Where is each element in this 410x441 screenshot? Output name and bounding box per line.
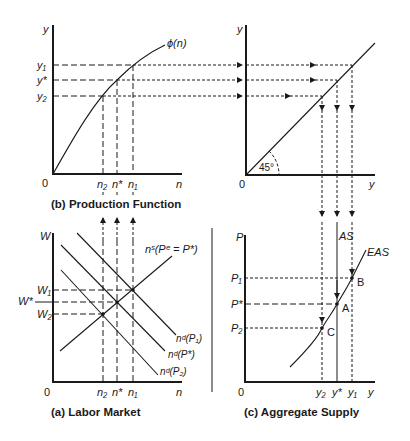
y2-tick: y₂ (315, 386, 327, 398)
forty-five-degree-panel: y 0 y 45° (236, 23, 376, 216)
labor-market-panel: W nˢ(Pᵉ = P*) W₁ W* W₂ nᵈ(P₁) nᵈ(P*) nᵈ(… (18, 218, 202, 418)
ystar-tick: y* (36, 74, 48, 86)
point-b: B (357, 276, 364, 288)
nstar-tick: n* (112, 178, 123, 190)
production-caption: (b) Production Function (51, 198, 181, 210)
phi-curve-label: ϕ(n) (167, 37, 187, 49)
y-axis-label: y (367, 386, 375, 398)
aggregate-caption: (c) Aggregate Supply (244, 406, 360, 418)
demand-pstar-label: nᵈ(P*) (168, 349, 195, 360)
eas-curve (290, 250, 366, 367)
y1-tick: y₁ (347, 386, 358, 398)
forty-five-line (246, 43, 375, 175)
wstar-tick: W* (18, 295, 33, 307)
demand-p1-label: nᵈ(P₁) (176, 333, 202, 344)
economics-diagram: y ϕ(n) y₁ y* y₂ 0 n₂ n* n₁ n (b) Product… (0, 0, 410, 441)
y-axis-label-horizontal: y (368, 178, 376, 190)
p-axis-label: P (236, 231, 244, 243)
y1-tick: y₁ (36, 59, 47, 71)
labor-demand-p2 (61, 270, 158, 375)
w1-tick: W₁ (37, 284, 51, 296)
as-label: AS (338, 230, 354, 242)
p2-tick: P₂ (231, 322, 243, 334)
n1-tick: n₁ (128, 386, 138, 398)
n1-tick: n₁ (128, 178, 138, 190)
ystar-tick: y* (331, 386, 343, 398)
n-axis-label: n (176, 178, 182, 190)
p1-tick: P₁ (231, 272, 242, 284)
angle-label: 45° (259, 162, 274, 173)
y-axis-label: y (236, 23, 244, 35)
labor-supply-curve (60, 256, 172, 351)
production-function-panel: y ϕ(n) y₁ y* y₂ 0 n₂ n* n₁ n (b) Product… (36, 23, 242, 210)
y-axis-label: y (42, 23, 50, 35)
w2-tick: W₂ (37, 308, 52, 320)
origin-label: 0 (42, 177, 48, 189)
n2-tick: n₂ (97, 386, 108, 398)
eas-label: EAS (367, 246, 390, 258)
pstar-tick: P* (231, 298, 243, 310)
origin-label: 0 (238, 386, 244, 398)
n-axis-label: n (176, 386, 182, 398)
labor-caption: (a) Labor Market (51, 406, 141, 418)
point-a: A (342, 302, 350, 314)
demand-p2-label: nᵈ(P₂) (160, 366, 187, 377)
nstar-tick: n* (112, 386, 123, 398)
w-axis-label: W (40, 230, 52, 242)
aggregate-supply-panel: P AS EAS P₁ P* P₂ B A C 0 y₂ y* y₁ y (c)… (231, 222, 390, 418)
labor-demand-pstar (61, 245, 165, 351)
origin-label: 0 (239, 178, 245, 190)
n2-tick: n₂ (97, 178, 108, 190)
origin-label: 0 (44, 386, 50, 398)
point-c: C (327, 326, 335, 338)
y2-tick: y₂ (36, 90, 48, 102)
production-curve (53, 45, 165, 174)
supply-label: nˢ(Pᵉ = P*) (145, 243, 198, 255)
